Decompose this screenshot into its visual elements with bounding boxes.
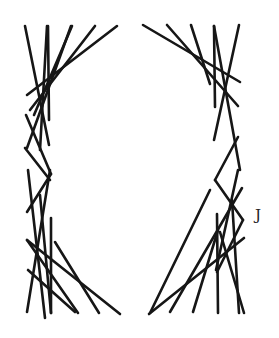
stroke-line [214, 26, 215, 107]
stroke-line [55, 242, 99, 313]
line-drawing [0, 0, 279, 338]
stroke-line [215, 137, 238, 180]
figure-label: J [255, 206, 261, 224]
stroke-line [34, 26, 72, 115]
stroke-line [193, 230, 218, 312]
stroke-line [232, 200, 239, 313]
stroke-line [48, 26, 49, 120]
stroke-line [217, 214, 218, 313]
stroke-line [27, 26, 117, 95]
stroke-line [214, 26, 240, 170]
